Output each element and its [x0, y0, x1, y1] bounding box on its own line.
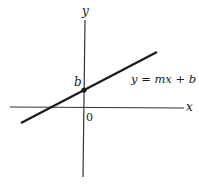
- intercept-label: b: [74, 76, 82, 88]
- y-intercept-point: [81, 87, 86, 92]
- y-axis-label: y: [82, 5, 89, 17]
- x-axis-label: x: [186, 101, 193, 113]
- diagram-graphic: [0, 0, 199, 185]
- line-diagram: y x b 0 y = mx + b: [0, 0, 199, 185]
- x-axis: [10, 107, 184, 108]
- origin-label: 0: [86, 112, 93, 123]
- y-axis: [83, 20, 85, 177]
- equation-label: y = mx + b: [131, 74, 196, 86]
